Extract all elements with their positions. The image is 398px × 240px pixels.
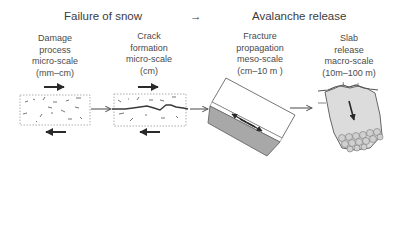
crack-line — [112, 105, 188, 110]
snow-sample-box — [114, 94, 186, 126]
crack-formation-figure — [112, 87, 188, 132]
damage-process-figure — [20, 87, 90, 132]
fracture-propagation-figure — [208, 78, 295, 156]
slab-release-figure — [318, 82, 383, 152]
snow-sample-box — [20, 95, 90, 125]
